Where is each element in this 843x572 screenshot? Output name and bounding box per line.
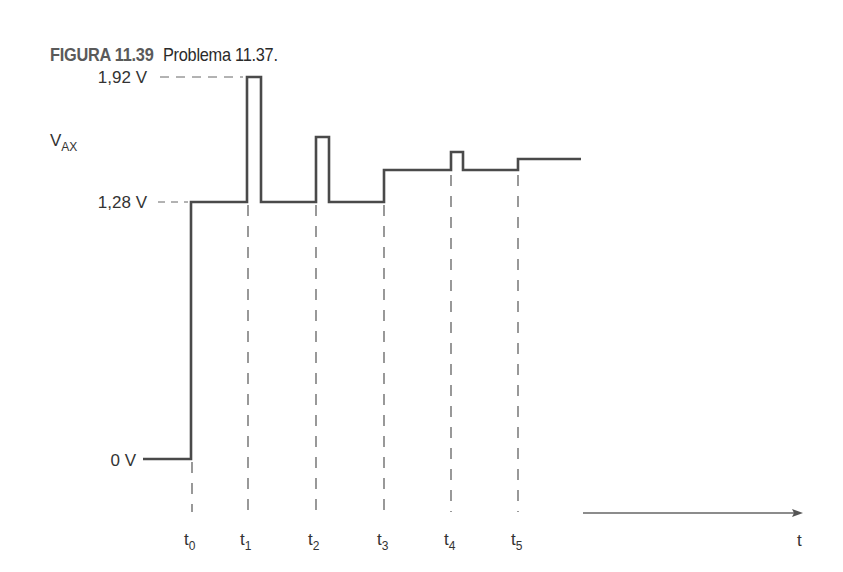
time-marker-lines xyxy=(192,175,518,512)
waveform-diagram: 1,92 V 1,28 V 0 V VAX t0 t1 t2 t3 t4 t5 … xyxy=(0,0,843,572)
time-labels: t0 t1 t2 t3 t4 t5 xyxy=(184,530,523,553)
time-label-t3: t3 xyxy=(377,530,389,553)
y-tick-1-92v: 1,92 V xyxy=(98,68,148,87)
y-axis-label-main: V xyxy=(50,131,62,150)
y-axis-label: VAX xyxy=(50,131,77,154)
x-axis-label: t xyxy=(797,531,802,550)
time-label-t1: t1 xyxy=(240,530,252,553)
time-label-t0: t0 xyxy=(184,530,196,553)
y-tick-1-28v: 1,28 V xyxy=(98,193,148,212)
y-tick-0v: 0 V xyxy=(110,451,136,470)
y-axis-label-sub: AX xyxy=(61,140,77,154)
time-label-t4: t4 xyxy=(444,530,456,553)
time-label-t2: t2 xyxy=(308,530,320,553)
vax-waveform xyxy=(143,77,581,459)
time-label-t5: t5 xyxy=(511,530,523,553)
